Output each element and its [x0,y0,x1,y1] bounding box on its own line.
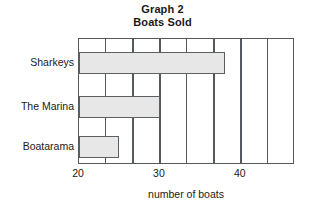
plot-area [78,38,294,164]
x-axis-title: number of boats [78,188,294,200]
chart-title-line-2: Boats Sold [0,16,325,29]
x-tick-label: 40 [220,167,260,179]
chart-title: Graph 2 Boats Sold [0,3,325,29]
category-label: The Marina [21,95,74,117]
chart-title-line-1: Graph 2 [0,3,325,16]
bar-track [79,96,295,118]
bar-track [79,52,295,74]
category-label: Sharkeys [30,51,74,73]
x-tick-label: 20 [58,167,98,179]
bar [79,136,119,158]
bar-track [79,136,295,158]
x-tick-label: 30 [139,167,179,179]
bar [79,52,225,74]
chart-figure: Graph 2 Boats Sold number of boats Shark… [0,0,325,209]
bar [79,96,160,118]
category-label: Boatarama [23,135,74,157]
